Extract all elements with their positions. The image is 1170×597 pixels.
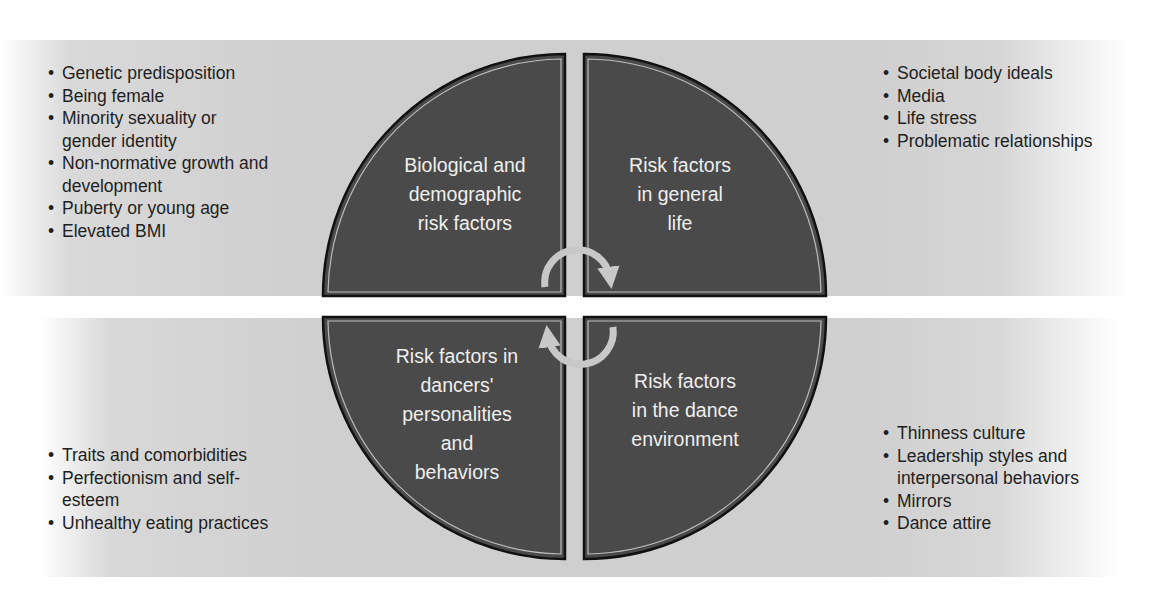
risk-list-top-right: Societal body ideals Media Life stress P… xyxy=(883,62,1153,152)
list-item: Being female xyxy=(48,85,298,108)
risk-list-bottom-left: Traits and comorbidities Perfectionism a… xyxy=(48,444,318,534)
list-item: Thinness culture xyxy=(883,422,1133,445)
quadrant-label-top-left: Biological and demographic risk factors xyxy=(380,151,550,238)
list-item: Puberty or young age xyxy=(48,197,298,220)
list-item: Perfectionism and self-esteem xyxy=(48,467,242,512)
quadrant-label-bottom-left: Risk factors in dancers' personalities a… xyxy=(372,342,542,487)
risk-list-bottom-right: Thinness culture Leadership styles and i… xyxy=(883,422,1133,535)
list-item: Elevated BMI xyxy=(48,220,298,243)
list-item: Minority sexuality or gender identity xyxy=(48,107,262,152)
list-item: Life stress xyxy=(883,107,1153,130)
list-item: Unhealthy eating practices xyxy=(48,512,318,535)
list-item: Media xyxy=(883,85,1153,108)
list-item: Mirrors xyxy=(883,490,1133,513)
quadrant-label-bottom-right: Risk factors in the dance environment xyxy=(595,367,775,454)
list-item: Genetic predisposition xyxy=(48,62,298,85)
list-item: Problematic relationships xyxy=(883,130,1153,153)
quadrant-label-top-right: Risk factors in general life xyxy=(600,151,760,238)
list-item: Non-normative growth and development xyxy=(48,152,272,197)
list-item: Societal body ideals xyxy=(883,62,1153,85)
list-item: Dance attire xyxy=(883,512,1133,535)
risk-list-top-left: Genetic predisposition Being female Mino… xyxy=(48,62,298,242)
list-item: Leadership styles and interpersonal beha… xyxy=(883,445,1112,490)
list-item: Traits and comorbidities xyxy=(48,444,318,467)
